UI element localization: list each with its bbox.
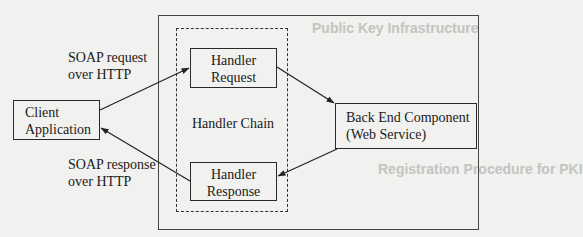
response-arrow — [101, 128, 190, 181]
to-backend-arrow — [277, 67, 334, 103]
request-arrow — [100, 68, 189, 110]
from-backend-arrow — [278, 149, 337, 176]
